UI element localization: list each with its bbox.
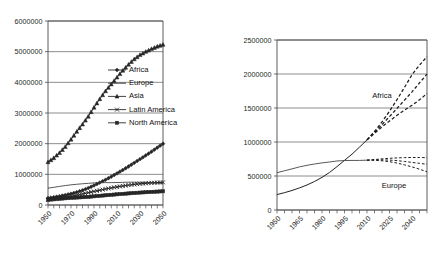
legend-label: North America xyxy=(129,118,178,127)
annotations-group: AfricaEurope xyxy=(372,91,406,190)
series-europe-high-variant xyxy=(367,158,427,161)
series-marker xyxy=(161,43,165,47)
legend-item-north-america[interactable]: North America xyxy=(108,118,178,127)
chart-panel-africa-europe: 0500000100000015000002000000250000019501… xyxy=(220,0,440,259)
x-axis-tick-label: 2050 xyxy=(151,209,169,227)
x-minor-ticks-group xyxy=(277,210,427,213)
legend-label: Asia xyxy=(129,91,145,100)
x-axis-tick-label: 1990 xyxy=(82,209,100,227)
chart-panel-world-population: 0100000020000003000000400000050000006000… xyxy=(0,0,220,259)
y-axis-tick-label: 0 xyxy=(268,206,272,215)
series-group xyxy=(277,57,427,195)
y-axis-tick-label: 4000000 xyxy=(15,78,43,87)
x-axis-tick-label: 2030 xyxy=(128,209,146,227)
x-axis-tick-label: 1980 xyxy=(310,214,328,232)
y-axis-tick-label: 500000 xyxy=(248,172,272,181)
x-axis-tick-label: 2040 xyxy=(400,214,418,232)
y-axis-tick-label: 1000000 xyxy=(15,170,43,179)
legend-item-africa[interactable]: Africa xyxy=(108,65,149,74)
series-marker xyxy=(115,68,119,72)
x-axis-tick-label: 1970 xyxy=(59,209,77,227)
legend-label: Latin America xyxy=(129,105,176,114)
series-africa-medium-variant xyxy=(367,74,427,140)
series-marker xyxy=(115,121,118,124)
y-axis-tick-label: 2000000 xyxy=(15,139,43,148)
annotation-europe: Europe xyxy=(382,181,407,190)
world-population-chart-svg: 0100000020000003000000400000050000006000… xyxy=(0,0,220,259)
series-europe-historical xyxy=(277,160,367,173)
x-axis-tick-label: 1995 xyxy=(332,214,350,232)
africa-europe-chart-svg: 0500000100000015000002000000250000019501… xyxy=(220,0,440,259)
y-axis-tick-label: 5000000 xyxy=(15,47,43,56)
series-asia xyxy=(46,43,165,164)
x-axis-tick-label: 1950 xyxy=(265,214,283,232)
x-axis-tick-label: 2025 xyxy=(377,214,395,232)
y-axis-tick-label: 1000000 xyxy=(244,138,272,147)
legend-label: Africa xyxy=(129,65,149,74)
annotation-africa: Africa xyxy=(372,91,392,100)
x-axis-tick-label: 1965 xyxy=(287,214,305,232)
legend-item-latin-america[interactable]: Latin America xyxy=(108,105,176,114)
series-europe-low-variant xyxy=(367,160,427,172)
series-marker xyxy=(161,190,164,193)
x-axis-tick-label: 2010 xyxy=(355,214,373,232)
y-axis-tick-label: 0 xyxy=(39,201,43,210)
y-axis-tick-label: 1500000 xyxy=(244,104,272,113)
x-axis-tick-label: 1950 xyxy=(36,209,54,227)
two-panel-population-figure: 0100000020000003000000400000050000006000… xyxy=(0,0,440,259)
series-africa-historical xyxy=(277,140,367,195)
series-europe-medium-variant xyxy=(367,160,427,164)
y-axis-tick-label: 2000000 xyxy=(244,70,272,79)
legend-item-asia[interactable]: Asia xyxy=(108,91,145,100)
y-axis-tick-label: 6000000 xyxy=(15,17,43,26)
x-minor-ticks-group xyxy=(48,205,163,208)
y-axis-tick-label: 3000000 xyxy=(15,109,43,118)
x-axis-tick-label: 2010 xyxy=(105,209,123,227)
legend-label: Europe xyxy=(129,78,154,87)
y-axis-tick-label: 2500000 xyxy=(244,36,272,45)
series-path xyxy=(48,144,163,198)
